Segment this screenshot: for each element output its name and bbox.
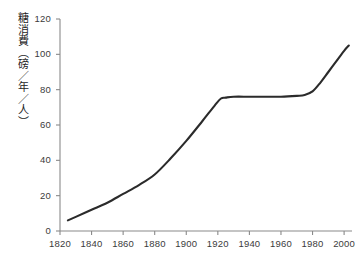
x-tick-label: 2000	[328, 238, 360, 249]
x-tick-label: 1920	[202, 238, 234, 249]
y-tick-label: 0	[0, 225, 51, 236]
x-tick-label: 1820	[44, 238, 76, 249]
y-tick-label: 40	[0, 154, 51, 165]
x-tick-label: 1880	[139, 238, 171, 249]
y-axis-ticks	[56, 19, 60, 231]
x-tick-label: 1840	[76, 238, 108, 249]
chart-container: 糖消費（磅／年／人） 020406080100120 1820184018601…	[0, 0, 363, 264]
x-axis-ticks	[60, 231, 344, 235]
series-group	[68, 46, 349, 221]
axis-lines	[60, 19, 352, 231]
y-tick-label: 120	[0, 13, 51, 24]
x-tick-label: 1900	[170, 238, 202, 249]
y-tick-label: 60	[0, 119, 51, 130]
y-tick-label: 20	[0, 190, 51, 201]
x-tick-label: 1860	[107, 238, 139, 249]
x-tick-label: 1940	[233, 238, 265, 249]
data-line-糖消費	[68, 46, 349, 221]
y-tick-label: 100	[0, 48, 51, 59]
x-tick-label: 1960	[265, 238, 297, 249]
x-tick-label: 1980	[297, 238, 329, 249]
y-tick-label: 80	[0, 84, 51, 95]
plot-area	[0, 0, 363, 264]
